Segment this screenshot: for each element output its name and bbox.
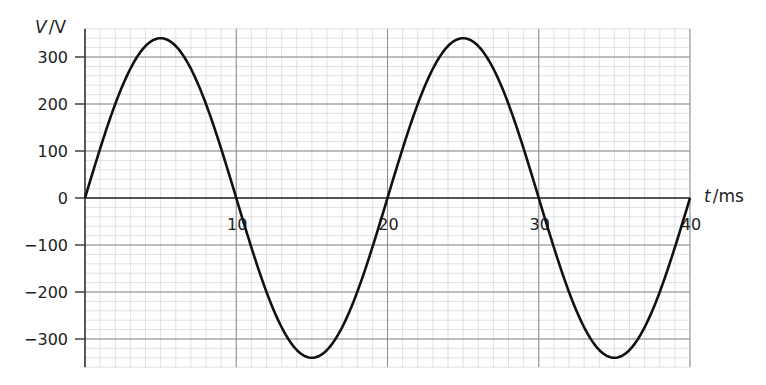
y-tick-label: 100 [37, 142, 68, 161]
y-tick-label: −300 [24, 330, 68, 349]
y-axis-variable: V [35, 17, 48, 37]
chart: 3002001000−100−200−300 10203040 V/V t/ms [0, 0, 766, 385]
x-axis-variable: t [704, 186, 712, 206]
x-axis-title: t/ms [704, 186, 744, 206]
y-tick-label: 300 [37, 48, 68, 67]
y-tick-label: 0 [58, 189, 68, 208]
y-tick-label: 200 [37, 95, 68, 114]
y-axis-unit: V [54, 17, 66, 37]
y-ticks: 3002001000−100−200−300 [24, 48, 85, 349]
x-axis-unit: ms [718, 186, 744, 206]
y-tick-label: −200 [24, 283, 68, 302]
y-axis-title: V/V [35, 17, 66, 37]
x-ticks: 10203040 [227, 215, 701, 234]
y-tick-label: −100 [24, 236, 68, 255]
